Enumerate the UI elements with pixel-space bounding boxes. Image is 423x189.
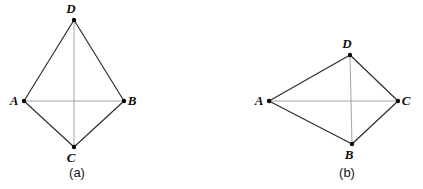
vertex-label-C: C <box>402 93 411 108</box>
panel-a-caption: (a) <box>69 165 85 180</box>
vertex-dot-B <box>122 99 126 103</box>
vertex-dot-A <box>22 99 26 103</box>
vertex-dot-D <box>72 18 76 22</box>
vertex-label-D: D <box>65 1 76 16</box>
canvas-background <box>0 0 423 189</box>
vertex-dot-C <box>396 99 400 103</box>
vertex-label-D: D <box>341 36 352 51</box>
geometry-figure-canvas: DABC (a) DACB (b) <box>0 0 423 189</box>
panel-b-caption: (b) <box>339 165 355 180</box>
vertex-label-B: B <box>127 93 137 108</box>
vertex-label-A: A <box>254 93 264 108</box>
vertex-dot-C <box>72 145 76 149</box>
vertex-dot-D <box>348 53 352 57</box>
vertex-label-A: A <box>9 93 19 108</box>
vertex-dot-B <box>350 142 354 146</box>
vertex-dot-A <box>267 99 271 103</box>
vertex-label-B: B <box>344 147 354 162</box>
vertex-label-C: C <box>67 150 76 165</box>
